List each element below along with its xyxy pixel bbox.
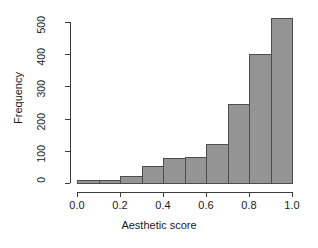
histogram-bar xyxy=(185,157,208,184)
histogram-bar xyxy=(120,176,143,184)
histogram-bar xyxy=(228,104,251,184)
histogram-plot: 0100200300400500 0.00.20.40.60.81.0 Freq… xyxy=(0,0,318,248)
histogram-bar xyxy=(77,180,100,184)
bar-series xyxy=(0,0,318,248)
histogram-bar xyxy=(271,18,294,184)
histogram-bar xyxy=(142,166,165,184)
histogram-bar xyxy=(249,54,272,184)
histogram-bar xyxy=(206,144,229,184)
histogram-bar xyxy=(99,180,122,184)
y-axis-title: Frequency xyxy=(12,72,26,124)
histogram-bar xyxy=(163,158,186,184)
x-axis-title: Aesthetic score xyxy=(0,219,318,231)
